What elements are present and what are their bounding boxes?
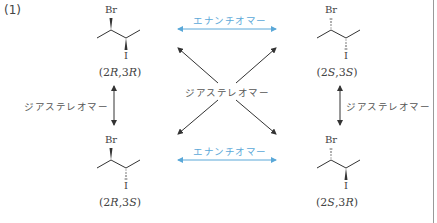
atom-br-top-right: Br: [325, 4, 337, 15]
diastereomer-arrow-diagonal-tr: [236, 48, 276, 83]
config-label-bottom-right: (2S,3R): [316, 196, 358, 209]
diastereomer-arrow-diagonal-tl: [178, 48, 218, 83]
atom-i-top-right: I: [344, 50, 348, 61]
diastereomer-label-right: ジアステレオマー: [346, 99, 430, 113]
molecule-top-right: [317, 19, 360, 49]
config-label-bottom-left: (2R,3S): [99, 196, 141, 209]
diastereomer-arrow-diagonal-bl: [178, 100, 218, 134]
diastereomer-arrow-diagonal-br: [236, 100, 276, 134]
atom-br-top-left: Br: [105, 4, 117, 15]
atom-i-bottom-left: I: [124, 180, 128, 191]
atom-br-bottom-left: Br: [105, 134, 117, 145]
config-label-top-right: (2S,3S): [316, 66, 357, 79]
config-label-top-left: (2R,3R): [99, 66, 142, 79]
atom-br-bottom-right: Br: [325, 134, 337, 145]
atom-i-bottom-right: I: [344, 180, 348, 191]
molecule-bottom-left: [97, 148, 140, 179]
atom-i-top-left: I: [124, 50, 128, 61]
molecule-bottom-right: [317, 149, 360, 180]
enantiomer-label-top: エナンチオマー: [193, 13, 267, 27]
diastereomer-label-left: ジアステレオマー: [24, 99, 108, 113]
diastereomer-label-center: ジアステレオマー: [185, 85, 269, 99]
molecule-top-left: [97, 18, 140, 50]
enantiomer-label-bottom: エナンチオマー: [193, 144, 267, 158]
